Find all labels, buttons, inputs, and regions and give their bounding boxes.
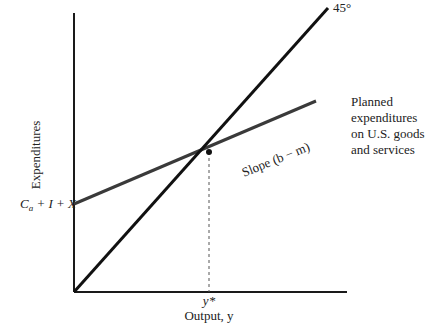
planned-label-line-3: on U.S. goods (351, 126, 425, 141)
planned-label-line-1: Planned (351, 94, 393, 109)
slope-label: Slope (b − m) (240, 139, 312, 180)
intercept-label: Ca + I + X (20, 196, 77, 213)
intercept-rest: + I + X (33, 196, 77, 211)
line-45-label: 45° (333, 0, 351, 15)
equilibrium-output-label: y* (201, 293, 216, 308)
planned-label-line-2: expenditures (351, 110, 417, 125)
intercept-c: C (20, 196, 29, 211)
planned-expenditures-label: Planned expenditures on U.S. goods and s… (351, 94, 425, 157)
x-axis-label: Output, y (184, 308, 234, 323)
equilibrium-point (206, 149, 212, 155)
y-axis-label: Expenditures (28, 121, 43, 190)
planned-label-line-4: and services (351, 142, 415, 157)
keynesian-cross-diagram: 45° Slope (b − m) Planned expenditures o… (0, 0, 444, 324)
